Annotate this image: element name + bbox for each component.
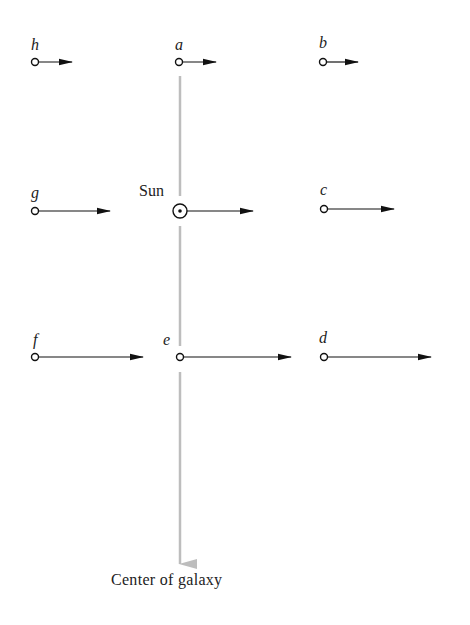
star-label-a: a — [175, 36, 183, 53]
star-b: b — [319, 34, 358, 66]
star-d: d — [319, 329, 431, 361]
star-label-g: g — [31, 184, 39, 202]
star-f: f — [32, 331, 144, 361]
galaxy-center-label: Center of galaxy — [111, 571, 222, 589]
star-label-d: d — [319, 329, 328, 346]
star-h: h — [31, 36, 72, 66]
sun: Sun — [139, 182, 253, 218]
star-label-c: c — [320, 181, 327, 198]
star-g: g — [31, 184, 110, 215]
star-label-b: b — [319, 34, 327, 51]
star-e: e — [163, 331, 291, 361]
star-label-e: e — [163, 331, 170, 348]
star-c: c — [320, 181, 394, 213]
star-label-h: h — [31, 36, 39, 53]
galactic-rotation-diagram: h a b g Sun c f e d — [0, 0, 470, 625]
sun-label: Sun — [139, 182, 164, 199]
star-label-f: f — [33, 331, 40, 349]
star-a: a — [175, 36, 216, 66]
